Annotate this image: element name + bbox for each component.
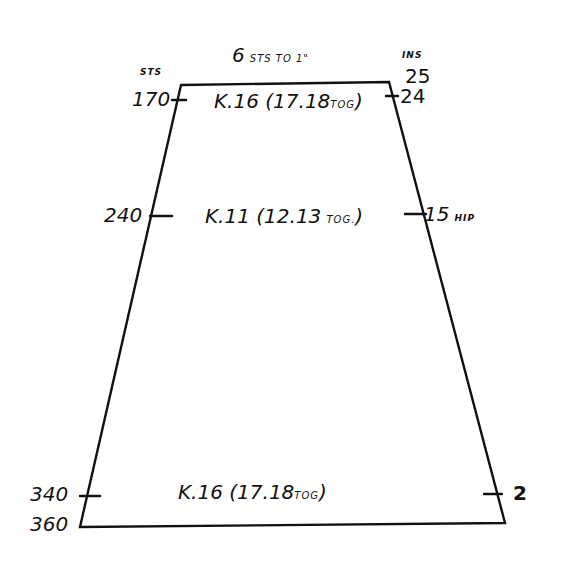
- right-mark-25: 25: [405, 66, 430, 86]
- garment-shape: [80, 82, 505, 527]
- gauge-text: STS TO 1": [250, 53, 309, 64]
- left-mark-170: 170: [132, 89, 170, 109]
- skirt-pattern-diagram: 6 STS TO 1" STS INS 170 240 340 360 25 2…: [0, 0, 563, 573]
- left-mark-360: 360: [30, 514, 68, 534]
- right-mark-2: 2: [513, 483, 527, 503]
- inches-header: INS: [402, 51, 422, 60]
- gauge-number: 6: [232, 43, 245, 67]
- right-mark-15: 15 HIP: [424, 204, 475, 224]
- left-mark-240: 240: [104, 205, 142, 225]
- instruction-middle: K.11 (12.13 TOG.): [205, 206, 363, 226]
- hip-note: HIP: [455, 213, 475, 223]
- instruction-bottom: K.16 (17.18TOG): [178, 482, 327, 502]
- instruction-top: K.16 (17.18TOG): [214, 91, 363, 111]
- gauge-title: 6 STS TO 1": [232, 45, 309, 65]
- stitches-header: STS: [140, 68, 162, 77]
- right-mark-24: 24: [400, 86, 425, 106]
- left-mark-340: 340: [30, 484, 68, 504]
- right-mark-15-value: 15: [424, 202, 449, 226]
